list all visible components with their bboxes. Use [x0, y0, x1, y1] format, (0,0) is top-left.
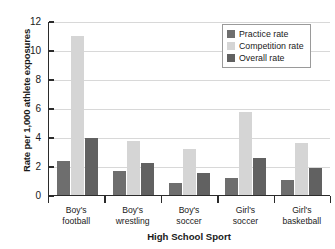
- x-axis-label-line: Boy's: [48, 205, 104, 216]
- legend-item: Competition rate: [227, 40, 304, 52]
- x-axis-title: High School Sport: [48, 231, 330, 242]
- x-axis-label-line: wrestling: [104, 216, 160, 227]
- legend-swatch-icon: [227, 54, 235, 62]
- legend-item-label: Practice rate: [239, 28, 288, 40]
- x-axis-label: Boy'sfootball: [48, 205, 104, 226]
- bar-group: [105, 22, 161, 195]
- x-axis-label-line: Boy's: [161, 205, 217, 216]
- x-axis-tick-mark: [274, 196, 275, 203]
- bar-overall: [309, 168, 322, 195]
- x-axis-tick-mark: [330, 196, 331, 203]
- legend-swatch-icon: [227, 30, 235, 38]
- x-axis-label: Girl'sbasketball: [274, 205, 330, 226]
- x-axis-tick-mark: [104, 196, 105, 203]
- bar-overall: [253, 158, 266, 195]
- bar-competition: [183, 149, 196, 195]
- x-axis-label: Girl'ssoccer: [217, 205, 273, 226]
- x-axis-labels: Boy'sfootballBoy'swrestlingBoy'ssoccerGi…: [48, 205, 330, 226]
- x-axis-label-line: Girl's: [274, 205, 330, 216]
- x-axis-tick-mark: [161, 196, 162, 203]
- x-axis-label-line: Boy's: [104, 205, 160, 216]
- legend-item-label: Competition rate: [239, 40, 304, 52]
- bar-overall: [85, 138, 98, 195]
- y-axis-tick-label: 8: [35, 73, 41, 87]
- x-axis-label: Boy'ssoccer: [161, 205, 217, 226]
- legend-swatch-icon: [227, 42, 235, 50]
- bar-practice: [281, 180, 294, 195]
- bar-practice: [113, 171, 126, 195]
- bar-practice: [57, 161, 70, 195]
- chart-legend: Practice rateCompetition rateOverall rat…: [222, 24, 311, 68]
- x-axis-label-line: soccer: [217, 216, 273, 227]
- bar-overall: [197, 173, 210, 195]
- y-axis-tick-label: 0: [35, 189, 41, 203]
- x-axis-label-line: Girl's: [217, 205, 273, 216]
- bar-practice: [169, 183, 182, 195]
- y-axis-tick-label: 2: [35, 160, 41, 174]
- legend-item: Overall rate: [227, 52, 304, 64]
- bar-practice: [225, 178, 238, 195]
- y-axis-tick-label: 6: [35, 102, 41, 116]
- bar-group: [161, 22, 217, 195]
- x-axis-label-line: football: [48, 216, 104, 227]
- bar-competition: [71, 36, 84, 196]
- bar-chart-figure: Rate per 1,000 athlete exposures 0246810…: [0, 0, 335, 249]
- bar-competition: [239, 112, 252, 195]
- bar-competition: [295, 143, 308, 195]
- x-axis-label: Boy'swrestling: [104, 205, 160, 226]
- legend-item: Practice rate: [227, 28, 304, 40]
- x-axis-label-line: soccer: [161, 216, 217, 227]
- bar-group: [49, 22, 105, 195]
- x-axis-label-line: basketball: [274, 216, 330, 227]
- x-axis-tick-mark: [48, 196, 49, 203]
- bar-competition: [127, 141, 140, 195]
- y-axis-tick-label: 12: [30, 15, 41, 29]
- y-axis-tick-label: 10: [30, 44, 41, 58]
- x-axis-tick-mark: [217, 196, 218, 203]
- y-axis-title: Rate per 1,000 athlete exposures: [21, 1, 32, 201]
- bar-overall: [141, 163, 154, 195]
- legend-item-label: Overall rate: [239, 52, 284, 64]
- y-axis-tick-label: 4: [35, 131, 41, 145]
